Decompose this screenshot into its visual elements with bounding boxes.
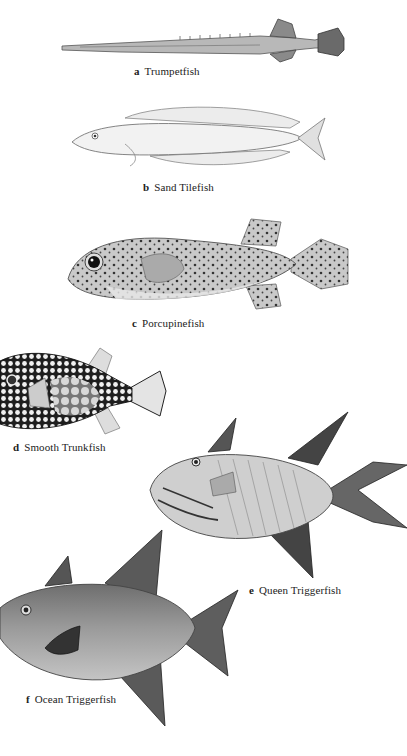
trumpetfish-illustration: [60, 14, 345, 64]
caption-b: bSand Tilefish: [143, 181, 214, 193]
caption-name: Porcupinefish: [142, 317, 204, 329]
smooth-trunkfish-illustration: [0, 346, 170, 436]
caption-letter: b: [143, 181, 149, 193]
caption-name: Trumpetfish: [145, 65, 200, 77]
caption-d: dSmooth Trunkfish: [13, 441, 106, 453]
caption-name: Ocean Triggerfish: [35, 693, 116, 705]
caption-a: aTrumpetfish: [134, 65, 200, 77]
caption-name: Smooth Trunkfish: [24, 441, 105, 453]
caption-name: Queen Triggerfish: [259, 584, 341, 596]
caption-letter: a: [134, 65, 140, 77]
sand-tilefish-illustration: [70, 100, 330, 180]
caption-c: cPorcupinefish: [132, 317, 204, 329]
caption-f: fOcean Triggerfish: [26, 693, 116, 705]
caption-e: eQueen Triggerfish: [249, 584, 341, 596]
caption-letter: e: [249, 584, 254, 596]
caption-letter: d: [13, 441, 19, 453]
caption-letter: c: [132, 317, 137, 329]
caption-letter: f: [26, 693, 30, 705]
porcupinefish-illustration: [66, 214, 351, 314]
caption-name: Sand Tilefish: [154, 181, 214, 193]
